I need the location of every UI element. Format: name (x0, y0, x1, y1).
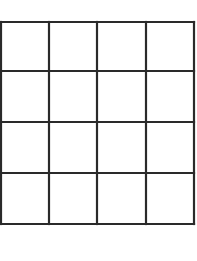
square-grid-diagram (0, 0, 197, 261)
